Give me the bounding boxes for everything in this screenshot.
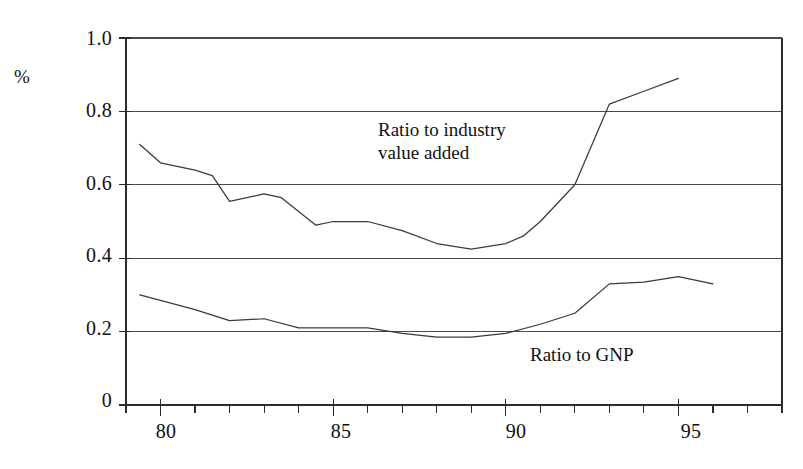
axis-frame [126, 38, 782, 405]
data-series-lines [140, 78, 713, 337]
chart-figure: % 1.0 0.8 0.6 0.4 0.2 0 80 85 90 95 Rati… [0, 0, 803, 469]
gridlines [126, 38, 782, 332]
series-line-0 [140, 78, 679, 249]
series-line-1 [140, 277, 713, 338]
plot-area [0, 0, 803, 469]
axis-ticks [119, 38, 782, 416]
